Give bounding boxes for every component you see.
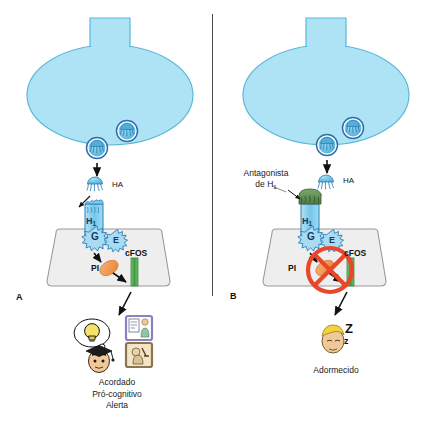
vesicle-icon <box>87 138 108 159</box>
receptor-label-a: H1 <box>86 216 96 226</box>
histamine-label-b: HA <box>343 176 354 185</box>
effector-label-a: E <box>113 235 119 245</box>
gprotein-label-b: G <box>307 231 315 242</box>
effector-label-b: E <box>329 235 335 245</box>
figure-canvas: Z z A HA H1 G E PI cFOS Acordado Pró-cog… <box>0 0 428 425</box>
cfos-label-a: cFOS <box>125 248 147 258</box>
pi-label-a: PI <box>91 263 99 273</box>
receptor-label-b: H1 <box>302 216 312 226</box>
histamine-icon <box>87 177 103 191</box>
cfos-label-b: cFOS <box>344 248 366 258</box>
outcome-line: Acordado <box>62 377 172 389</box>
vesicle-icon <box>343 118 364 139</box>
antagonist-label-line: de H1 <box>240 179 292 190</box>
outcome-caption-b: Adormecido <box>288 365 384 376</box>
pi-label-b: PI <box>288 263 296 273</box>
outcome-caption-a: Acordado Pró-cognitivo Alerta <box>62 377 172 412</box>
svg-text:z: z <box>344 336 349 346</box>
antagonist-label: Antagonista de H1 <box>240 168 292 190</box>
panel-letter-a: A <box>16 292 23 302</box>
histamine-label-a: HA <box>112 180 123 189</box>
panel-a-graphics <box>27 18 193 373</box>
svg-text:Z: Z <box>345 321 353 336</box>
histamine-icon <box>318 175 334 189</box>
vesicle-icon <box>117 121 138 142</box>
panel-divider <box>212 14 213 296</box>
panel-letter-b: B <box>230 291 237 301</box>
gprotein-label-a: G <box>91 231 99 242</box>
diagram-graphics: Z z <box>0 0 428 425</box>
vesicle-icon <box>317 135 338 156</box>
outcome-line: Pró-cognitivo <box>62 389 172 401</box>
antagonist-label-line: Antagonista <box>240 168 292 179</box>
outcome-line: Alerta <box>62 400 172 412</box>
antagonist-molecule <box>299 189 321 204</box>
